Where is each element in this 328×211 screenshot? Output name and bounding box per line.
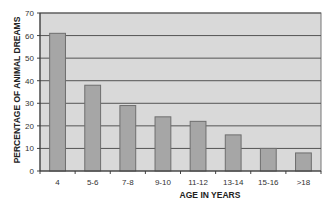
x-tick-label: 5-6 xyxy=(87,178,99,187)
bar xyxy=(120,106,136,171)
x-tick-label: 4 xyxy=(55,178,60,187)
x-tick-label: 15-16 xyxy=(258,178,279,187)
x-tick-label: >18 xyxy=(297,178,311,187)
bar xyxy=(260,148,276,171)
x-tick-label: 7-8 xyxy=(122,178,134,187)
bar xyxy=(225,135,241,171)
x-tick-label: 9-10 xyxy=(155,178,172,187)
x-tick-label: 11-12 xyxy=(188,178,208,187)
y-axis-label: PERCENTAGE OF ANIMAL DREAMS xyxy=(12,10,24,170)
x-axis-label: AGE IN YEARS xyxy=(150,190,270,200)
y-tick-label: 40 xyxy=(25,77,34,86)
y-tick-label: 10 xyxy=(25,144,34,153)
bar xyxy=(296,153,312,171)
plot-area xyxy=(40,13,321,171)
y-tick-label: 60 xyxy=(25,32,34,41)
y-tick-label: 70 xyxy=(25,9,34,18)
chart-canvas: 01020304050607045-67-89-1011-1213-1415-1… xyxy=(0,0,328,211)
y-tick-label: 30 xyxy=(25,99,34,108)
y-tick-label: 20 xyxy=(25,122,34,131)
bar xyxy=(50,33,66,171)
x-tick-label: 13-14 xyxy=(223,178,244,187)
bar xyxy=(85,85,101,171)
y-tick-label: 50 xyxy=(25,54,34,63)
bar xyxy=(155,117,171,171)
y-tick-label: 0 xyxy=(30,167,35,176)
bar-chart: 01020304050607045-67-89-1011-1213-1415-1… xyxy=(0,0,328,211)
bar xyxy=(190,121,206,171)
